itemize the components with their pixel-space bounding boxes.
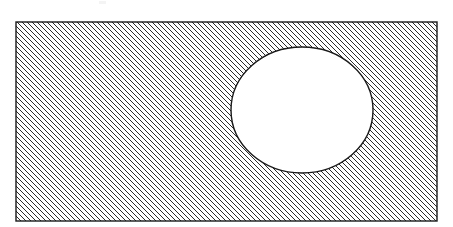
faint-top-smudge [99,1,106,4]
figure-canvas [0,0,453,227]
hatched-plate-fill [16,22,437,221]
geometry-figure [0,0,453,227]
